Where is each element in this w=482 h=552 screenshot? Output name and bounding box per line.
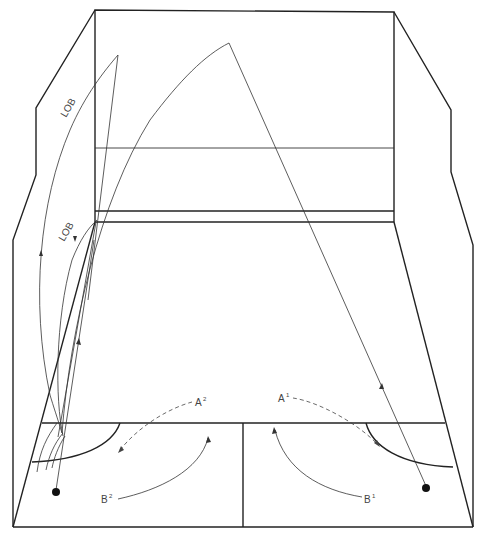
label-lob-upper: LOB (58, 96, 78, 119)
label-a2-sup: 2 (203, 396, 207, 402)
right-drive-arrow-icon (379, 383, 384, 389)
lob-upper-return (88, 55, 118, 300)
front-wall (95, 10, 394, 222)
left-corner-arc-2 (46, 433, 63, 470)
b1-trajectory (275, 430, 362, 497)
left-corner-arc-3 (52, 436, 65, 468)
a2-arrow-icon (118, 446, 124, 453)
high-lob-trajectory (62, 43, 229, 433)
court-diagram: A 2 A 1 B 2 B 1 LOB LOB (0, 0, 482, 552)
label-a1-sup: 1 (286, 392, 290, 398)
high-lob-descent (229, 43, 426, 486)
b1-arrow-icon (272, 427, 277, 434)
a1-dashed-trajectory (293, 398, 378, 445)
b2-trajectory (118, 438, 208, 499)
lob-lower-arrow-icon (73, 236, 77, 242)
lob-upper-arrow-icon (39, 250, 43, 256)
a2-dashed-trajectory (120, 402, 192, 450)
label-a2: A (195, 397, 202, 408)
label-b1: B (364, 494, 371, 505)
label-a1: A (278, 393, 285, 404)
label-b2: B (101, 494, 108, 505)
label-b1-sup: 1 (372, 493, 376, 499)
left-drive-arrow-icon (76, 338, 81, 345)
floor (13, 222, 473, 527)
floor-right-edge (394, 222, 473, 527)
label-lob-lower: LOB (56, 220, 76, 243)
left-drive-line (56, 240, 94, 490)
left-ball-position (52, 488, 60, 496)
left-drive-line-2 (58, 222, 96, 437)
label-b2-sup: 2 (109, 493, 113, 499)
b2-arrow-icon (206, 436, 211, 443)
lob-trajectory-upper (40, 55, 118, 433)
floor-left-edge (13, 222, 95, 527)
right-ball-position (422, 484, 430, 492)
